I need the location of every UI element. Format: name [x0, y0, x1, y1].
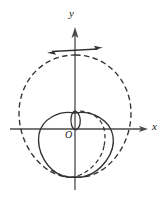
- figure-canvas: [0, 0, 167, 198]
- origin-label: O: [65, 130, 72, 140]
- x-axis-label: x: [152, 121, 157, 132]
- coordinate-axes: [10, 27, 148, 190]
- inner-solid-cardioid-curve: [39, 112, 114, 177]
- y-axis-label: y: [69, 8, 74, 19]
- math-figure: y x O: [0, 0, 167, 198]
- inner-dashed-lower-lobe: [75, 146, 104, 177]
